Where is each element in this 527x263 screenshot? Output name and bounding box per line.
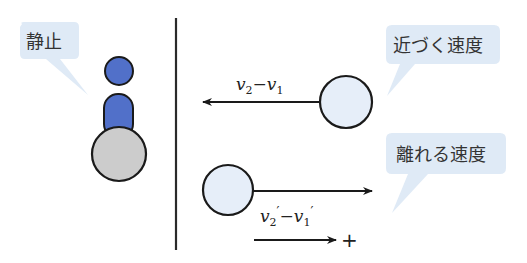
label-separation-speed: 離れる速度 [396,144,486,165]
separating-ball [203,165,253,215]
approach-velocity-label: v2−v1 [236,74,283,97]
bubble-separation-speed: 離れる速度 [386,133,506,213]
approaching-ball [320,76,372,128]
positive-sign: + [341,228,358,252]
gray-ball [92,127,146,181]
collision-diagram: 静止 v2−v1 近づく速度 v2′−v1′ + 離れる速度 [0,0,527,263]
bubble-stationary: 静止 [20,22,88,95]
person-head [105,57,133,85]
person-figure [104,57,133,138]
label-stationary: 静止 [26,31,62,52]
bubble-approach-speed: 近づく速度 [386,25,500,96]
separation-velocity-label: v2′−v1′ [260,204,313,229]
label-approach-speed: 近づく速度 [393,35,483,56]
